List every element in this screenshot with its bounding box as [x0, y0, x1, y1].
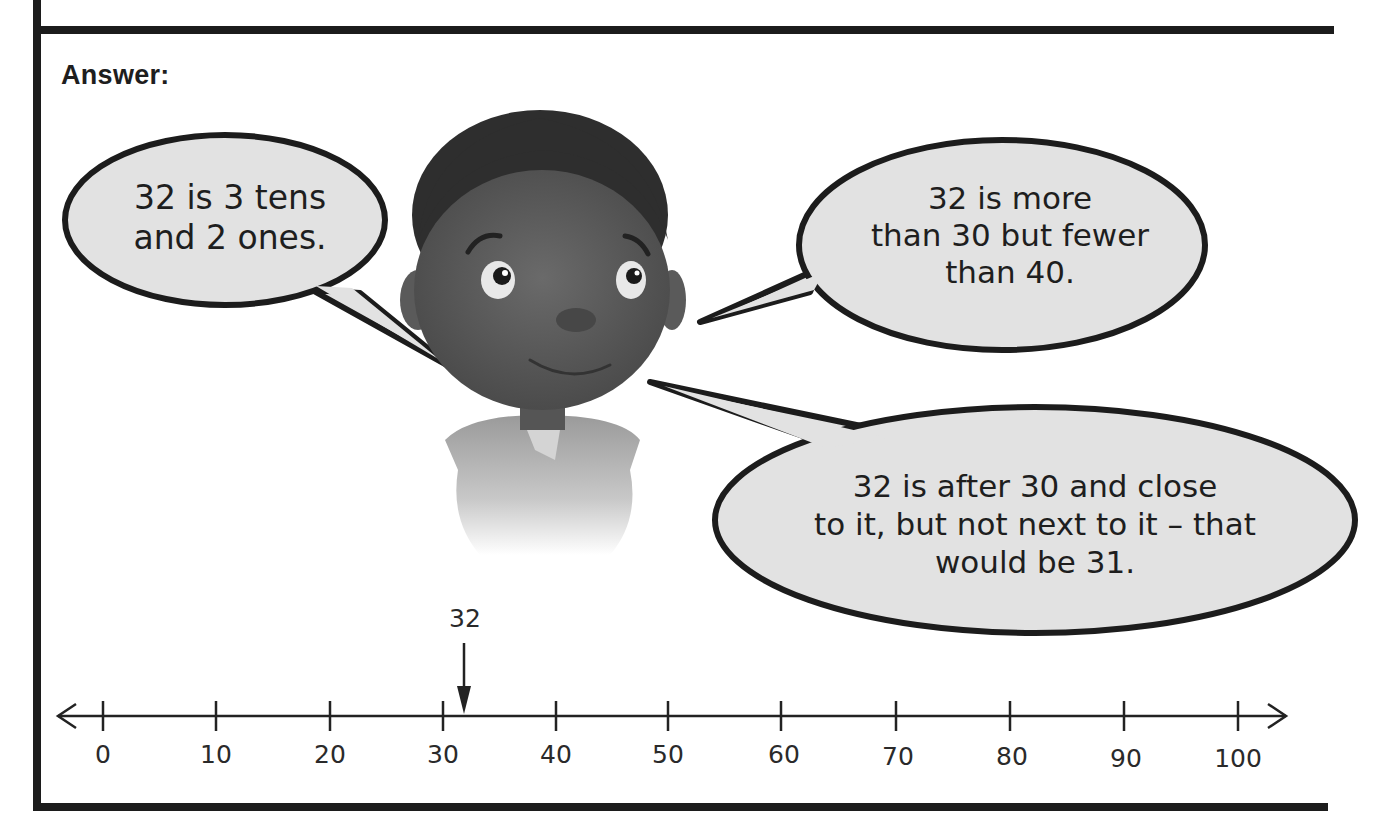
tick-label-0: 0 — [95, 740, 111, 769]
bubble-line: 32 is after 30 and close — [740, 468, 1330, 506]
tick-label-100: 100 — [1214, 744, 1262, 773]
bubble-text-tens-ones: 32 is 3 tens and 2 ones. — [100, 178, 360, 259]
tick-label-80: 80 — [996, 742, 1028, 771]
bubble-line: 32 is 3 tens — [100, 178, 360, 218]
marker-label: 32 — [449, 604, 481, 633]
number-line — [58, 643, 1286, 731]
tick-label-50: 50 — [652, 740, 684, 769]
marker-arrow-icon — [457, 643, 471, 714]
bubble-line: to it, but not next to it – that — [740, 506, 1330, 544]
tick-label-40: 40 — [540, 740, 572, 769]
bubble-text-more-fewer: 32 is more than 30 but fewer than 40. — [820, 180, 1200, 292]
bubble-line: than 30 but fewer — [820, 217, 1200, 254]
tick-label-10: 10 — [200, 740, 232, 769]
bubble-line: and 2 ones. — [100, 218, 360, 258]
tick-label-30: 30 — [427, 740, 459, 769]
bubble-line: 32 is more — [820, 180, 1200, 217]
tick-label-60: 60 — [768, 740, 800, 769]
boy-character-illustration — [400, 110, 686, 555]
tick-label-20: 20 — [314, 740, 346, 769]
illustration-canvas — [0, 0, 1394, 836]
bubble-line: would be 31. — [740, 544, 1330, 582]
tick-label-90: 90 — [1110, 744, 1142, 773]
bubble-line: than 40. — [820, 254, 1200, 291]
tick-label-70: 70 — [882, 742, 914, 771]
bubble-text-after-close: 32 is after 30 and close to it, but not … — [740, 468, 1330, 581]
